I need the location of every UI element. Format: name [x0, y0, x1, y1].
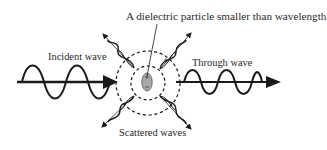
- incident-wave: [17, 66, 118, 99]
- scattered-wave-upper-right: [160, 33, 191, 69]
- through-wave: [176, 70, 281, 94]
- through-wave-label: Through wave: [192, 58, 252, 68]
- scattered-wave-lower-right: [160, 96, 191, 129]
- title-pointer-line: [147, 24, 157, 76]
- scattered-wave-upper-left: [103, 34, 134, 68]
- diagram-canvas: A dielectric particle smaller than wavel…: [0, 0, 327, 150]
- through-arrowhead-icon: [266, 76, 281, 88]
- scattered-wave-lower-left: [102, 96, 134, 127]
- incident-wave-label: Incident wave: [48, 52, 107, 62]
- scattered-waves-label: Scattered waves: [119, 128, 186, 138]
- particle-title-label: A dielectric particle smaller than wavel…: [126, 11, 326, 22]
